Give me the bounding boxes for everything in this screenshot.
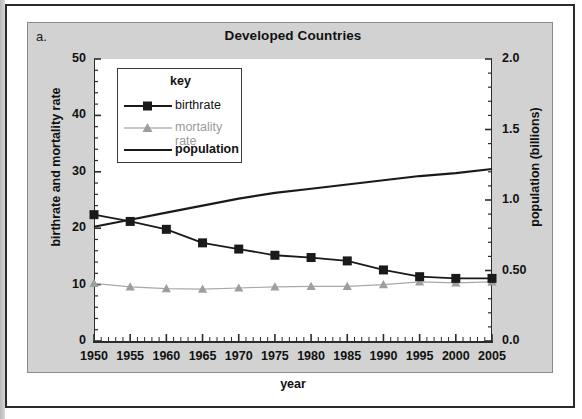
y-axis-right-tick-label: 0.0 — [502, 333, 548, 347]
series-population-line — [94, 169, 492, 227]
y-axis-right-ticks — [485, 59, 492, 341]
y-axis-left-tick-label: 0 — [52, 333, 86, 347]
figure-container: a. Developed Countries 01020304050 0.00.… — [0, 0, 582, 419]
x-axis-tick-label: 2005 — [470, 349, 514, 363]
legend-swatch-birthrate — [124, 96, 172, 116]
legend-item-birthrate: birthrate — [118, 96, 243, 116]
x-axis-ticks — [94, 334, 492, 341]
x-axis-title: year — [94, 377, 492, 391]
series-mortality-line — [89, 277, 496, 293]
cropped-caption — [150, 411, 450, 419]
y-axis-left-tick-label: 50 — [52, 51, 86, 65]
y-axis-left-ticks — [94, 59, 101, 341]
legend-swatch-mortality — [124, 118, 172, 138]
legend-label-population: population — [175, 142, 239, 156]
y-axis-left-tick-label: 10 — [52, 277, 86, 291]
legend-box: key birthrate mortality rate population — [117, 68, 242, 163]
legend-swatch-population — [124, 140, 172, 160]
legend-item-mortality: mortality rate — [118, 118, 243, 138]
series-birthrate-line — [90, 210, 497, 283]
y-axis-left-title: birthrate and mortality rate — [49, 67, 63, 267]
legend-label-birthrate: birthrate — [175, 98, 221, 112]
y-axis-right-title: population (billions) — [528, 62, 542, 272]
legend-title: key — [118, 74, 243, 88]
legend-item-population: population — [118, 140, 243, 160]
